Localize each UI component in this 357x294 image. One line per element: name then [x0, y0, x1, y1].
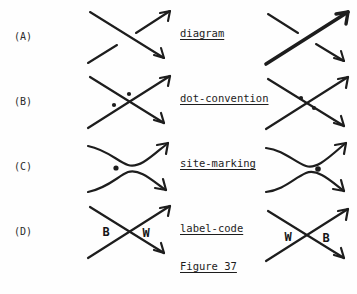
- figure-page: (A) diagram: [0, 0, 357, 294]
- crossing-diagram-right-a: [262, 8, 357, 68]
- dot-north: [127, 92, 131, 96]
- labelled-crossing-left-d: B W: [84, 203, 180, 263]
- center-label-diagram: diagram: [180, 27, 224, 39]
- figure-caption: Figure 37: [180, 260, 237, 272]
- crossing-letter-west: B: [102, 225, 109, 239]
- crossing-letter-west: W: [284, 230, 292, 244]
- dot-east: [312, 106, 316, 110]
- dot-west: [299, 96, 303, 100]
- upper-smoothing-curve: [88, 143, 168, 166]
- center-label-label-code: label-code: [180, 222, 243, 234]
- dot-west: [113, 165, 118, 170]
- crossing-diagram-left-b: [84, 73, 180, 133]
- over-strand-nw-se: [90, 12, 164, 58]
- crossing-letter-east: B: [322, 231, 329, 245]
- strand-nw-se: [90, 77, 164, 123]
- crossing-diagram-right-b: [262, 73, 357, 133]
- center-label-site-marking: site-marking: [180, 157, 256, 169]
- row-label-a: (A): [14, 31, 32, 42]
- dot-east: [315, 166, 321, 172]
- center-label-dot-convention: dot-convention: [180, 92, 269, 104]
- smoothing-diagram-right-c: [262, 138, 357, 198]
- lower-smoothing-curve: [266, 172, 344, 192]
- row-label-d: (D): [14, 226, 32, 237]
- upper-smoothing-curve: [266, 143, 346, 167]
- crossing-letter-east: W: [142, 226, 150, 240]
- dot-west: [112, 103, 116, 107]
- smoothing-diagram-left-c: [84, 138, 180, 198]
- labelled-crossing-right-d: W B: [262, 205, 357, 265]
- strand-nw-se: [90, 207, 164, 253]
- lower-smoothing-curve: [88, 171, 166, 192]
- crossing-diagram-left-a: [84, 8, 180, 68]
- row-label-c: (C): [14, 161, 32, 172]
- row-label-b: (B): [14, 96, 32, 107]
